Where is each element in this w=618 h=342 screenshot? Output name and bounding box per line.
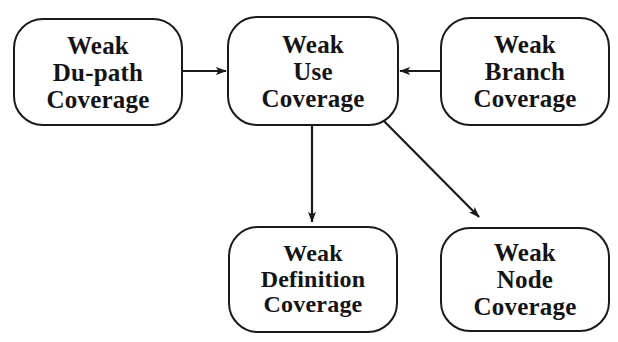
diagram-canvas: Weak Du-path Coverage Weak Use Coverage … <box>0 0 618 342</box>
node-label-line-1: Weak <box>282 31 344 58</box>
edge-use-to-node <box>376 113 479 217</box>
node-weak-use-coverage[interactable]: Weak Use Coverage <box>227 16 399 126</box>
node-weak-node-coverage[interactable]: Weak Node Coverage <box>440 227 610 332</box>
node-label-line-1: Weak <box>494 31 556 58</box>
node-label-line-3: Coverage <box>474 85 577 112</box>
node-label-line-2: Du-path <box>53 59 143 86</box>
node-weak-branch-coverage[interactable]: Weak Branch Coverage <box>440 17 610 126</box>
node-label-line-1: Weak <box>494 239 556 266</box>
node-label-line-1: Weak <box>283 241 342 267</box>
node-label-line-3: Coverage <box>474 293 577 320</box>
node-label-line-2: Node <box>497 266 553 293</box>
node-label-line-1: Weak <box>67 32 129 59</box>
node-label-line-2: Use <box>293 58 332 85</box>
node-label-line-3: Coverage <box>47 86 150 113</box>
node-label-line-3: Coverage <box>262 85 365 112</box>
node-weak-du-path-coverage[interactable]: Weak Du-path Coverage <box>13 18 183 126</box>
node-weak-definition-coverage[interactable]: Weak Definition Coverage <box>228 226 398 333</box>
node-label-line-2: Branch <box>485 58 565 85</box>
node-label-line-2: Definition <box>261 267 366 293</box>
node-label-line-3: Coverage <box>264 292 363 318</box>
